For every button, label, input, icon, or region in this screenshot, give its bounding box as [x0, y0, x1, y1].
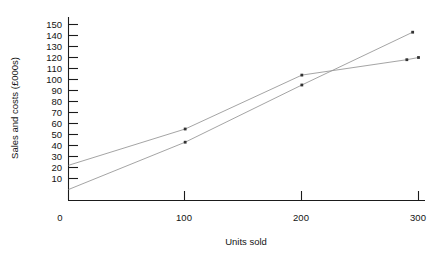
y-tick-label: 60: [51, 118, 62, 129]
series-layer: [69, 31, 420, 190]
data-point-marker: [417, 56, 420, 59]
x-tick-marks: [185, 191, 419, 201]
data-point-marker: [411, 31, 414, 34]
data-point-marker: [184, 141, 187, 144]
series-line: [69, 32, 413, 189]
series-line: [69, 58, 419, 166]
y-axis-title: Sales and costs (£000s): [9, 57, 20, 159]
y-tick-label: 130: [46, 41, 62, 52]
x-tick-label: 200: [293, 212, 309, 223]
y-tick-label: 20: [51, 162, 62, 173]
y-tick-label: 50: [51, 129, 62, 140]
data-point-marker: [405, 58, 408, 61]
y-tick-label: 150: [46, 19, 62, 30]
y-tick-label: 10: [51, 173, 62, 184]
data-point-marker: [300, 84, 303, 87]
x-tick-labels: 0 100 200 300: [57, 212, 426, 223]
x-tick-label: 100: [176, 212, 192, 223]
y-tick-marks: [68, 25, 78, 179]
y-tick-label: 70: [51, 107, 62, 118]
data-point-marker: [184, 128, 187, 131]
y-tick-label: 100: [46, 74, 62, 85]
y-tick-label: 90: [51, 85, 62, 96]
y-tick-label: 80: [51, 96, 62, 107]
y-tick-label: 140: [46, 30, 62, 41]
chart-svg: Sales and costs (£000s) 150 140 130 120 …: [0, 0, 437, 258]
x-tick-label: 300: [410, 212, 426, 223]
y-tick-label: 120: [46, 52, 62, 63]
y-tick-labels: 150 140 130 120 110 100 90 80 70 60 50 4…: [46, 19, 62, 184]
data-point-marker: [300, 74, 303, 77]
y-tick-label: 30: [51, 151, 62, 162]
x-axis-title: Units sold: [225, 236, 267, 247]
y-tick-label: 110: [47, 63, 62, 74]
break-even-chart: Sales and costs (£000s) 150 140 130 120 …: [0, 0, 437, 258]
x-tick-label: 0: [57, 212, 62, 223]
y-tick-label: 40: [51, 140, 62, 151]
